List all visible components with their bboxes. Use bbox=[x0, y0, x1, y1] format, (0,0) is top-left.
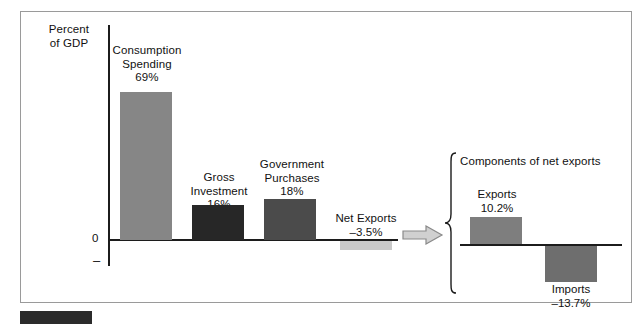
y-axis-tick-negative: – bbox=[93, 256, 100, 266]
y-axis-tick-zero: 0 bbox=[92, 232, 98, 244]
bar-label-imports: Imports –13.7% bbox=[538, 283, 604, 310]
y-axis-caption-line2: of GDP bbox=[30, 36, 108, 50]
bar-consumption bbox=[120, 92, 172, 240]
bottom-tag bbox=[20, 311, 92, 324]
bar-label-government-line2: Purchases bbox=[246, 172, 338, 186]
bar-value-exports: 10.2% bbox=[466, 202, 528, 216]
bar-value-imports: –13.7% bbox=[538, 297, 604, 311]
bar-government-purchases bbox=[264, 199, 316, 240]
right-arrow-icon bbox=[402, 225, 444, 245]
bar-label-net-exports: Net Exports –3.5% bbox=[324, 212, 408, 239]
bar-value-consumption: 69% bbox=[104, 71, 190, 85]
bar-label-exports-name: Exports bbox=[466, 188, 528, 202]
bar-label-consumption: Consumption Spending 69% bbox=[104, 44, 190, 85]
bar-exports bbox=[470, 217, 522, 244]
bar-label-net-exports-line1: Net Exports bbox=[324, 212, 408, 226]
curly-brace-icon bbox=[444, 152, 458, 294]
bar-label-imports-name: Imports bbox=[538, 283, 604, 297]
bar-label-government-line1: Government bbox=[246, 158, 338, 172]
bar-value-net-exports: –3.5% bbox=[324, 226, 408, 240]
bar-label-consumption-line2: Spending bbox=[104, 58, 190, 72]
y-axis-caption-line1: Percent bbox=[30, 22, 108, 36]
y-axis-caption: Percent of GDP bbox=[30, 22, 108, 50]
bar-label-consumption-line1: Consumption bbox=[104, 44, 190, 58]
bar-label-exports: Exports 10.2% bbox=[466, 188, 528, 215]
bar-net-exports bbox=[340, 241, 392, 250]
figure-root: Percent of GDP 0 – Consumption Spending … bbox=[0, 0, 638, 324]
bar-gross-investment bbox=[192, 205, 244, 240]
bar-value-government: 18% bbox=[246, 185, 338, 199]
bar-imports bbox=[545, 246, 597, 282]
bar-label-government: Government Purchases 18% bbox=[246, 158, 338, 199]
inset-title: Components of net exports bbox=[460, 155, 601, 167]
inset-axis-baseline bbox=[460, 244, 622, 246]
